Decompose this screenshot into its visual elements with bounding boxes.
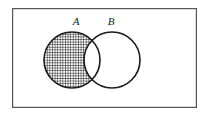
set-label-b: B — [108, 15, 115, 27]
venn-diagram-figure: A B — [0, 0, 210, 118]
shaded-region-a-minus-b — [0, 0, 210, 118]
venn-diagram-canvas: A B — [0, 0, 210, 118]
set-label-a: A — [72, 15, 80, 27]
